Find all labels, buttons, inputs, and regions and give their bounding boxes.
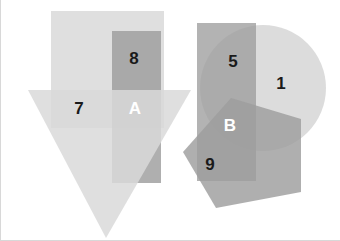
shapes-svg xyxy=(1,0,340,241)
shape-left-triangle xyxy=(28,90,191,238)
figure-canvas: 8 7 A 5 1 B 9 xyxy=(0,0,340,241)
